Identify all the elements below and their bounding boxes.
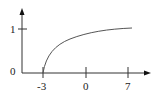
x-axis-arrow-icon — [144, 71, 151, 76]
chart-plot — [0, 0, 158, 101]
data-curve — [43, 28, 132, 73]
x-label-0: 0 — [83, 81, 89, 92]
y-label-0: 0 — [10, 66, 16, 77]
y-axis-arrow-icon — [20, 8, 25, 15]
x-label-m3: -3 — [37, 81, 46, 92]
y-label-1: 1 — [10, 24, 16, 35]
x-label-7: 7 — [125, 81, 131, 92]
